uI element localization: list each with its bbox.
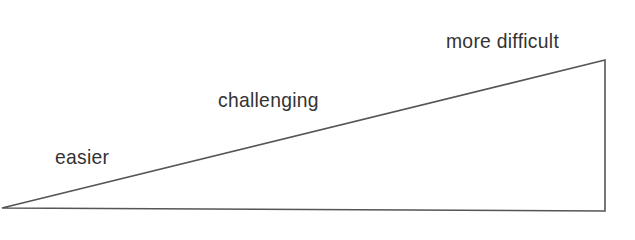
label-more-difficult: more difficult [446, 30, 559, 51]
label-challenging: challenging [218, 89, 319, 110]
difficulty-wedge-triangle [2, 60, 605, 211]
label-easier: easier [55, 146, 109, 167]
